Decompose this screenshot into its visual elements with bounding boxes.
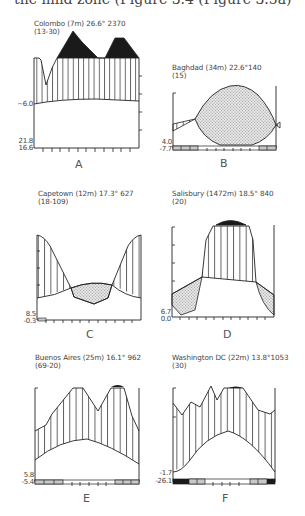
diagram-d-label: D — [223, 328, 231, 341]
diagram-a-years: (13-30) — [34, 28, 125, 36]
diagram-c-header: Capetown (12m) 17.3° 627 (18-109) — [38, 190, 134, 206]
diagram-f — [173, 386, 275, 486]
diagram-b-label: B — [220, 157, 228, 170]
diagram-d-title: Salisbury (1472m) 18.5° 840 — [172, 190, 273, 198]
diagram-c-ylabel-2: -0.3 — [10, 318, 36, 325]
diagram-f-header: Washington DC (22m) 13.8°1053 (30) — [172, 354, 288, 370]
diagram-f-title: Washington DC (22m) 13.8°1053 — [172, 354, 288, 362]
diagram-f-ylabel-1: -1.7 — [146, 470, 172, 477]
diagram-d — [172, 221, 274, 321]
diagram-d-years: (20) — [172, 198, 273, 206]
diagram-a-label: A — [75, 158, 83, 171]
diagram-a — [34, 31, 142, 152]
diagram-e-years: (69-20) — [35, 362, 141, 370]
diagram-d-header: Salisbury (1472m) 18.5° 840 (20) — [172, 190, 273, 206]
diagram-e — [35, 385, 139, 486]
diagram-e-label: E — [83, 492, 90, 505]
diagram-c — [37, 235, 141, 323]
diagram-f-ylabel-2: -26.1 — [146, 478, 172, 485]
diagram-e-ylabel-2: -5.4 — [8, 479, 34, 486]
diagram-b — [173, 85, 280, 151]
diagram-b-header: Baghdad (34m) 22.6°140 (15) — [172, 64, 261, 80]
diagram-d-ylabel-2: 0.0 — [145, 316, 171, 323]
diagram-a-temp-label: ~6.0 — [7, 101, 33, 108]
diagram-f-label: F — [222, 492, 228, 505]
diagram-b-years: (15) — [172, 72, 261, 80]
diagram-c-years: (18-109) — [38, 198, 134, 206]
diagram-c-label: C — [86, 328, 94, 341]
diagram-e-header: Buenos Aires (25m) 16.1° 962 (69-20) — [35, 354, 141, 370]
diagram-b-ylabel-2: -7.7 — [146, 146, 172, 153]
diagram-a-header: Colombo (7m) 26.6° 2370 (13-30) — [34, 20, 125, 36]
diagram-f-years: (30) — [172, 362, 288, 370]
diagram-a-ylabel-2: 16.6 — [7, 145, 33, 152]
